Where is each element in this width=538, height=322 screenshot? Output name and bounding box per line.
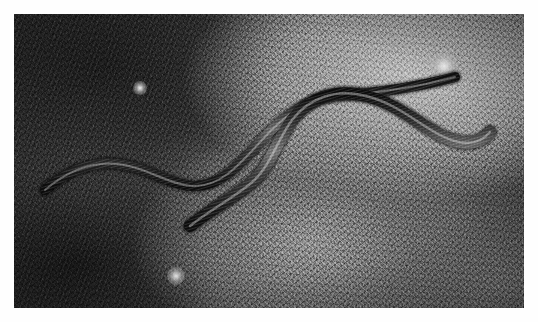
photograph-frame (0, 0, 538, 322)
photograph-canvas (14, 14, 524, 308)
vignette-layer (14, 14, 524, 308)
